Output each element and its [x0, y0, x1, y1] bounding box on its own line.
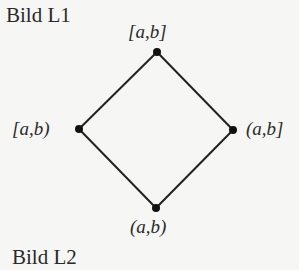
label-left-closed-interval: [a,b) — [12, 119, 49, 138]
node-top — [153, 48, 161, 56]
node-left — [75, 125, 83, 133]
caption-bild-l2: Bild L2 — [12, 247, 77, 268]
edge-top-right — [157, 52, 233, 130]
edge-top-left — [79, 52, 157, 129]
label-open-interval: (a,b) — [130, 217, 166, 236]
edge-left-bottom — [79, 129, 156, 208]
node-right — [229, 126, 237, 134]
label-right-closed-interval: (a,b] — [246, 119, 283, 138]
edge-right-bottom — [156, 130, 233, 208]
label-closed-interval: [a,b] — [128, 22, 167, 41]
node-bottom — [152, 204, 160, 212]
